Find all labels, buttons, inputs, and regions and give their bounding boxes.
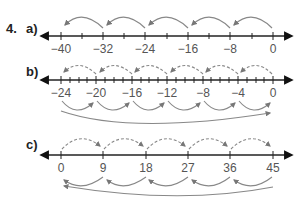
tick-b-2: −16 (122, 86, 143, 100)
tick-b-6: 0 (270, 86, 277, 100)
number-lines-diagram: −40 −32 −24 −16 −8 0 −24 −20 −16 −12 −8 (0, 0, 302, 203)
number-line-b: −24 −20 −16 −12 −8 −4 0 (47, 65, 286, 123)
tick-b-3: −12 (157, 86, 178, 100)
tick-c-4: 36 (223, 161, 237, 175)
tick-a-1: −32 (93, 42, 114, 56)
tick-b-0: −24 (51, 86, 72, 100)
solid-arrows-c (64, 177, 273, 196)
tick-c-0: 0 (58, 161, 65, 175)
tick-c-2: 18 (139, 161, 153, 175)
tick-a-0: −40 (51, 42, 72, 56)
dashed-arrows-c (62, 139, 270, 149)
tick-b-5: −4 (231, 86, 245, 100)
solid-arrows-b (61, 101, 270, 124)
tick-b-1: −20 (86, 86, 107, 100)
tick-c-1: 9 (100, 161, 107, 175)
tick-b-4: −8 (196, 86, 210, 100)
tick-a-4: −8 (223, 42, 237, 56)
number-line-a: −40 −32 −24 −16 −8 0 (47, 17, 286, 56)
number-line-c: 0 9 18 27 36 45 (47, 139, 286, 196)
tick-a-2: −24 (135, 42, 156, 56)
tick-a-5: 0 (270, 42, 277, 56)
dashed-arrows-b (64, 65, 272, 74)
tick-a-3: −16 (178, 42, 199, 56)
jump-arrows-a (65, 17, 272, 28)
tick-c-3: 27 (181, 161, 195, 175)
tick-c-5: 45 (266, 161, 280, 175)
